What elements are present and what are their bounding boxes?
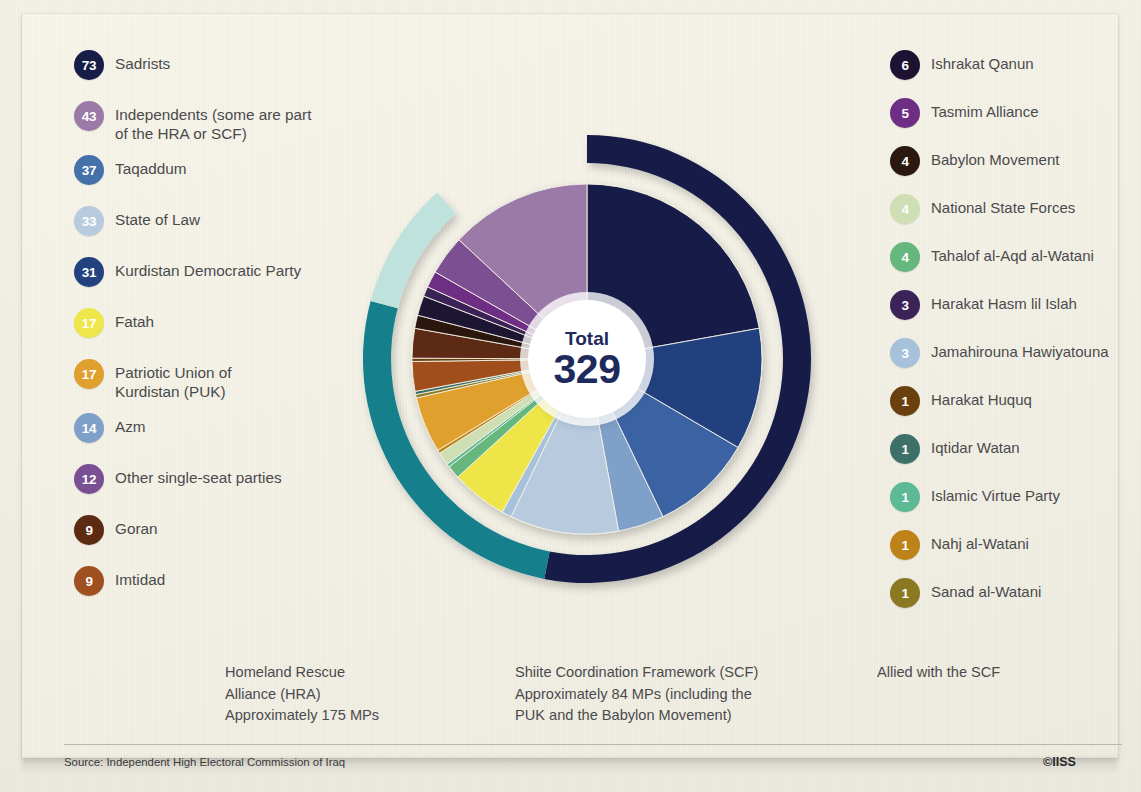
legend-item[interactable]: 1Nahj al-Watani (890, 530, 1120, 560)
crescent-arc-icon (187, 664, 215, 710)
legend-seat-count-badge: 43 (74, 101, 104, 131)
legend-party-label: Other single-seat parties (115, 464, 282, 488)
legend-party-label: Taqaddum (115, 155, 186, 179)
legend-seat-count-badge: 6 (890, 50, 920, 80)
legend-item[interactable]: 4National State Forces (890, 194, 1120, 224)
legend-party-label: Ishrakat Qanun (931, 50, 1034, 74)
legend-party-label: Sadrists (115, 50, 170, 74)
legend-seat-count-badge: 73 (74, 50, 104, 80)
infographic-card: 73Sadrists43Independents (some are part … (22, 14, 1118, 758)
card-drop-shadow (22, 758, 1118, 774)
legend-party-label: Harakat Hasm lil Islah (931, 290, 1077, 314)
legend-seat-count-badge: 5 (890, 98, 920, 128)
legend-item[interactable]: 1Sanad al-Watani (890, 578, 1120, 608)
legend-item[interactable]: 1Islamic Virtue Party (890, 482, 1120, 512)
footer-divider (64, 744, 1122, 745)
legend-party-label: Iqtidar Watan (931, 434, 1020, 458)
legend-party-label: Kurdistan Democratic Party (115, 257, 301, 281)
legend-item[interactable]: 4Babylon Movement (890, 146, 1120, 176)
bloc-key-label: Homeland Rescue Alliance (HRA) Approxima… (225, 662, 379, 727)
legend-seat-count-badge: 9 (74, 515, 104, 545)
legend-seat-count-badge: 17 (74, 359, 104, 389)
legend-party-label: Babylon Movement (931, 146, 1059, 170)
legend-item[interactable]: 1Iqtidar Watan (890, 434, 1120, 464)
bloc-key-item: Allied with the SCF (839, 662, 1000, 710)
legend-seat-count-badge: 1 (890, 530, 920, 560)
legend-item[interactable]: 3Harakat Hasm lil Islah (890, 290, 1120, 320)
legend-seat-count-badge: 14 (74, 413, 104, 443)
bloc-key: Homeland Rescue Alliance (HRA) Approxima… (187, 662, 1087, 742)
legend-party-label: Imtidad (115, 566, 165, 590)
legend-seat-count-badge: 12 (74, 464, 104, 494)
legend-party-label: Sanad al-Watani (931, 578, 1041, 602)
legend-party-label: Harakat Huquq (931, 386, 1032, 410)
legend-right-column: 6Ishrakat Qanun5Tasmim Alliance4Babylon … (890, 50, 1120, 626)
legend-seat-count-badge: 1 (890, 482, 920, 512)
donut-chart: Total 329 (304, 50, 884, 670)
legend-item[interactable]: 6Ishrakat Qanun (890, 50, 1120, 80)
legend-party-label: Patriotic Union of Kurdistan (PUK) (115, 359, 231, 401)
bloc-key-label: Allied with the SCF (877, 662, 1000, 684)
legend-party-label: National State Forces (931, 194, 1075, 218)
legend-party-label: State of Law (115, 206, 200, 230)
legend-seat-count-badge: 1 (890, 386, 920, 416)
legend-item[interactable]: 4Tahalof al-Aqd al-Watani (890, 242, 1120, 272)
legend-seat-count-badge: 4 (890, 146, 920, 176)
legend-item[interactable]: 3Jamahirouna Hawiyatouna (890, 338, 1120, 368)
center-total-badge: Total 329 (528, 300, 646, 418)
legend-item[interactable]: 1Harakat Huquq (890, 386, 1120, 416)
legend-party-label: Islamic Virtue Party (931, 482, 1060, 506)
legend-seat-count-badge: 1 (890, 434, 920, 464)
legend-party-label: Tasmim Alliance (931, 98, 1039, 122)
legend-seat-count-badge: 17 (74, 308, 104, 338)
legend-seat-count-badge: 9 (74, 566, 104, 596)
bloc-key-item: Shiite Coordination Framework (SCF) Appr… (477, 662, 758, 727)
legend-seat-count-badge: 31 (74, 257, 104, 287)
legend-party-label: Tahalof al-Aqd al-Watani (931, 242, 1094, 266)
infographic-page: 73Sadrists43Independents (some are part … (0, 0, 1141, 792)
legend-seat-count-badge: 4 (890, 242, 920, 272)
crescent-arc-icon (839, 664, 867, 710)
center-total-value: 329 (554, 349, 621, 390)
crescent-arc-icon (477, 664, 505, 710)
legend-seat-count-badge: 3 (890, 338, 920, 368)
legend-seat-count-badge: 37 (74, 155, 104, 185)
legend-party-label: Goran (115, 515, 158, 539)
legend-seat-count-badge: 4 (890, 194, 920, 224)
legend-party-label: Azm (115, 413, 146, 437)
legend-party-label: Nahj al-Watani (931, 530, 1029, 554)
legend-item[interactable]: 5Tasmim Alliance (890, 98, 1120, 128)
legend-seat-count-badge: 33 (74, 206, 104, 236)
legend-seat-count-badge: 1 (890, 578, 920, 608)
legend-party-label: Fatah (115, 308, 154, 332)
legend-party-label: Jamahirouna Hawiyatouna (931, 338, 1109, 362)
legend-seat-count-badge: 3 (890, 290, 920, 320)
bloc-key-item: Homeland Rescue Alliance (HRA) Approxima… (187, 662, 379, 727)
legend-party-label: Independents (some are part of the HRA o… (115, 101, 311, 143)
bloc-key-label: Shiite Coordination Framework (SCF) Appr… (515, 662, 758, 727)
